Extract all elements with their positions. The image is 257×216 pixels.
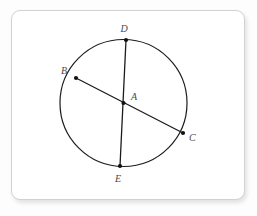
point-dot-c: [181, 131, 185, 135]
geometry-diagram: A B C D E: [0, 0, 257, 216]
point-label-d: D: [119, 23, 128, 34]
point-dot-e: [118, 164, 122, 168]
point-dot-b: [74, 76, 78, 80]
point-label-a: A: [130, 91, 138, 102]
figure-root: A B C D E: [0, 0, 257, 216]
point-dot-d: [124, 38, 128, 42]
point-label-b: B: [61, 65, 67, 76]
point-label-e: E: [114, 173, 121, 184]
chord-bc: [76, 78, 183, 133]
point-label-c: C: [189, 132, 196, 143]
point-dot-a: [121, 101, 125, 105]
